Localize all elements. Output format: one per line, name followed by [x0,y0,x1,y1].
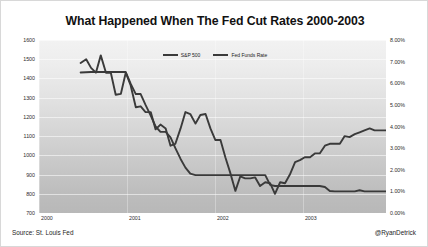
series-lines [39,40,386,213]
x-axis-tick: 2003 [305,215,317,221]
y-axis-right-tick: 0.00% [390,210,405,216]
x-axis-tick: 2001 [129,215,141,221]
plot-area [39,40,386,213]
chart-title: What Happened When The Fed Cut Rates 200… [1,14,428,28]
y-axis-left-tick: 1600 [3,37,35,43]
y-axis-right-tick: 4.00% [390,124,405,130]
source-note: Source: St. Louis Fed [12,229,73,236]
y-axis-left-tick: 1300 [3,95,35,101]
y-axis-left-tick: 1100 [3,133,35,139]
y-axis-left-tick: 1000 [3,152,35,158]
y-axis-left-tick: 1200 [3,114,35,120]
y-axis-right-tick: 8.00% [390,37,405,43]
y-axis-right-tick: 6.00% [390,80,405,86]
series-line-fed-funds-rate [81,72,386,191]
y-axis-right-tick: 7.00% [390,59,405,65]
credit-note: @RyanDetrick [375,229,416,236]
y-axis-right-tick: 5.00% [390,102,405,108]
y-axis-left-tick: 700 [3,210,35,216]
x-axis-tick: 2000 [41,215,53,221]
y-axis-left-tick: 800 [3,191,35,197]
y-axis-left-tick: 1500 [3,56,35,62]
y-axis-right-tick: 1.00% [390,188,405,194]
y-axis-left-tick: 900 [3,172,35,178]
x-axis-tick: 2002 [217,215,229,221]
y-axis-left-tick: 1400 [3,75,35,81]
y-axis-right-tick: 3.00% [390,145,405,151]
chart-card: What Happened When The Fed Cut Rates 200… [0,0,428,247]
y-axis-right-tick: 2.00% [390,167,405,173]
